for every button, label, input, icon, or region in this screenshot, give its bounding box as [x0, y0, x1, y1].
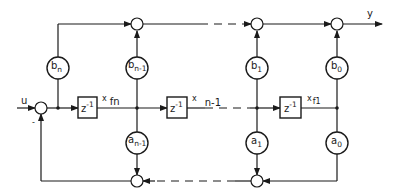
sum-node-top-3 [331, 18, 343, 30]
block-diagram: bn bn-1 b1 b0 an-1 a1 a0 z-1 z-1 z-1 xfn… [0, 0, 396, 194]
svg-text:xn-1: xn-1 [192, 94, 221, 108]
sum-node-bottom-2 [251, 175, 263, 187]
input-label: u [21, 95, 27, 106]
sum-node-input [35, 102, 47, 114]
svg-text:xf1: xf1 [307, 94, 321, 106]
sum-node-top-1 [131, 18, 143, 30]
output-label: y [367, 8, 373, 19]
svg-text:xfn: xfn [102, 94, 120, 107]
negative-sign: - [32, 118, 35, 127]
sum-node-bottom-1 [131, 175, 143, 187]
sum-node-top-2 [251, 18, 263, 30]
